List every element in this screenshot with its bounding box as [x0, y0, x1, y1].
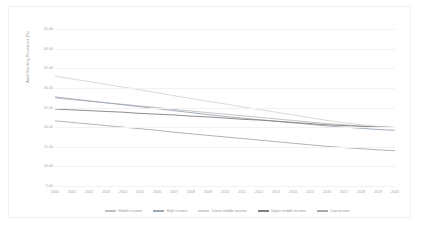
- y-tick-label: 5.00: [31, 184, 53, 188]
- chart-legend: Middle incomeHigh incomeLower middle inc…: [55, 205, 400, 217]
- y-tick-label: 35.00: [31, 66, 53, 70]
- legend-label: High income: [167, 209, 188, 213]
- legend-swatch: [198, 210, 209, 211]
- y-tick-label: 30.00: [31, 86, 53, 90]
- y-axis-tick-labels: 5.0010.0015.0020.0025.0030.0035.0040.004…: [29, 29, 53, 186]
- y-tick-label: 10.00: [31, 164, 53, 168]
- legend-item[interactable]: Lower middle income: [198, 209, 246, 213]
- x-tick-label: 2020: [384, 190, 406, 194]
- legend-swatch: [153, 210, 164, 211]
- legend-label: Upper middle income: [271, 209, 306, 213]
- legend-item[interactable]: Middle income: [105, 209, 142, 213]
- chart-container: Adult Smoking Prevalence (%) 5.0010.0015…: [8, 6, 411, 218]
- gridline: [55, 108, 395, 109]
- gridline: [55, 127, 395, 128]
- legend-item[interactable]: Low income: [317, 209, 350, 213]
- legend-swatch: [317, 210, 328, 211]
- legend-label: Middle income: [118, 209, 142, 213]
- x-axis-tick-labels: 2000200120022003200420052006200720082009…: [55, 190, 395, 202]
- y-tick-label: 20.00: [31, 125, 53, 129]
- legend-item[interactable]: Upper middle income: [258, 209, 306, 213]
- legend-label: Lower middle income: [212, 209, 247, 213]
- legend-item[interactable]: High income: [153, 209, 187, 213]
- legend-label: Low income: [330, 209, 350, 213]
- gridline: [55, 147, 395, 148]
- gridline: [55, 29, 395, 30]
- legend-swatch: [105, 210, 116, 211]
- gridline: [55, 186, 395, 187]
- gridline: [55, 166, 395, 167]
- y-tick-label: 40.00: [31, 47, 53, 51]
- gridline: [55, 49, 395, 50]
- y-tick-label: 15.00: [31, 145, 53, 149]
- series-line: [55, 76, 395, 127]
- plot-area: [55, 29, 395, 186]
- gridline: [55, 68, 395, 69]
- y-tick-label: 25.00: [31, 106, 53, 110]
- legend-swatch: [258, 210, 269, 211]
- y-tick-label: 45.00: [31, 27, 53, 31]
- gridline: [55, 88, 395, 89]
